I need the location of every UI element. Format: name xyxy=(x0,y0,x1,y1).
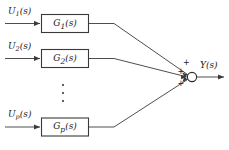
output-path-1 xyxy=(89,24,188,75)
input-label-1: U1(s) xyxy=(8,7,31,16)
diagram-svg xyxy=(0,0,229,150)
sum-sign-1: + xyxy=(183,59,190,67)
sum-sign-2: + xyxy=(178,68,185,76)
input-label-p: Up(s) xyxy=(8,110,31,119)
output-label: Y(s) xyxy=(200,61,218,70)
input-label-2: U2(s) xyxy=(8,42,31,51)
block-label-2: G2(s) xyxy=(42,54,89,65)
output-path-p xyxy=(89,80,188,128)
block-label-1: G1(s) xyxy=(42,19,89,30)
vertical-ellipsis-icon xyxy=(62,84,64,102)
sum-sign-3: + xyxy=(178,80,185,88)
block-diagram-canvas: U1(s) U2(s) Up(s) G1(s) G2(s) Gp(s) + + … xyxy=(0,0,229,150)
block-label-p: Gp(s) xyxy=(42,122,89,133)
output-path-2 xyxy=(89,59,187,77)
summing-junction-circle[interactable] xyxy=(187,72,196,81)
